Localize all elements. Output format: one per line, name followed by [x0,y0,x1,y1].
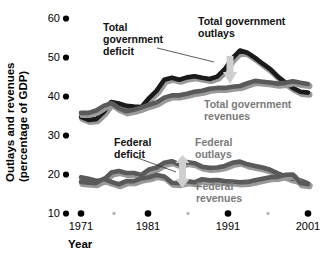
y-tick-dot-20 [63,171,69,177]
annotation-total-government-outlays-line1: Total government [198,15,286,27]
annotation-total-government-revenues-line2: revenues [204,110,250,122]
y-axis-title-line2: (percentage of GDP) [17,71,29,182]
y-tick-label-50: 50 [48,51,60,63]
y-tick-label-20: 20 [48,168,60,180]
annotation-total-government-deficit-line3: deficit [103,45,134,57]
x-minor-tick-dot-1986 [186,212,189,215]
x-tick-label-1991: 1991 [216,220,240,232]
annotation-federal-deficit-line2: deficit [114,148,145,160]
annotation-federal-outlays-line2: outlays [195,148,232,160]
annotation-total-government-outlays-line2: outlays [198,27,235,39]
y-tick-dot-40 [63,93,69,99]
y-tick-dot-30 [63,132,69,138]
x-tick-label-2001: 2001 [296,220,320,232]
y-tick-label-30: 30 [48,129,60,141]
annotation-total-government-deficit-line2: government [103,33,164,45]
annotation-total-government-revenues-line1: Total government [204,98,292,110]
annotation-federal-revenues-line2: revenues [196,192,242,204]
annotation-federal-revenues-line1: Federal [196,180,233,192]
x-tick-dot-2001 [305,210,312,217]
x-tick-label-1981: 1981 [136,220,160,232]
x-minor-tick-dot-1996 [266,212,269,215]
x-minor-tick-dot-1976 [112,212,115,215]
y-tick-dot-10 [63,210,69,216]
annotation-federal-outlays: Federal outlays [195,136,232,160]
y-axis-title: Outlays and revenues (percentage of GDP) [4,62,29,182]
federal-deficit-arrow-shaft [179,162,186,180]
y-tick-dot-50 [63,54,69,60]
x-tick-dot-1981 [145,210,152,217]
x-tick-label-1971: 1971 [69,220,93,232]
x-tick-dot-1971 [78,210,85,217]
chart-svg: 60 50 40 30 20 10 Outlays and revenues (… [0,0,332,255]
y-tick-label-10: 10 [48,207,60,219]
y-tick-dot-60 [63,15,69,21]
annotation-total-government-deficit-line1: Total [103,21,127,33]
y-tick-label-60: 60 [48,12,60,24]
y-tick-label-40: 40 [48,90,60,102]
chart-figure: 60 50 40 30 20 10 Outlays and revenues (… [0,0,332,255]
annotation-federal-deficit-line1: Federal [114,136,151,148]
x-axis-title: Year [68,238,93,250]
annotation-federal-outlays-line1: Federal [195,136,232,148]
y-axis-title-line1: Outlays and revenues [4,62,16,182]
x-tick-dot-1991 [225,210,232,217]
